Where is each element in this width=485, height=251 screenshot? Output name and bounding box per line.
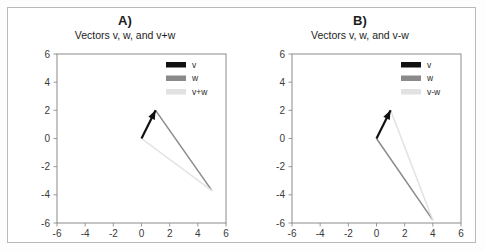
legend-swatch-w	[166, 76, 186, 82]
x-tick-label: 2	[402, 228, 408, 239]
y-tick-label: 0	[279, 133, 285, 144]
legend-swatch-v	[401, 62, 421, 68]
x-tick-label: 6	[458, 228, 464, 239]
x-tick-label: 0	[139, 228, 145, 239]
y-tick-label: -2	[276, 161, 285, 172]
x-tick-label: -4	[81, 228, 90, 239]
y-tick-label: -4	[41, 189, 50, 200]
y-tick-label: 4	[279, 77, 285, 88]
y-tick-label: 4	[44, 77, 50, 88]
x-tick-label: 6	[223, 228, 229, 239]
panel-a-plot: -6-4-20246-6-4-20246vwv+w	[8, 40, 242, 240]
y-tick-label: 6	[44, 49, 50, 60]
figure-root: A) Vectors v, w, and v+w -6-4-20246-6-4-…	[0, 0, 485, 251]
legend-swatch-w	[401, 76, 421, 82]
y-tick-label: 2	[279, 105, 285, 116]
y-tick-label: -6	[41, 218, 50, 229]
legend-label-w: w	[191, 73, 199, 83]
legend-label-w: w	[426, 73, 434, 83]
legend: vwv-w	[397, 57, 457, 102]
y-tick-label: -4	[276, 189, 285, 200]
legend-label-v-w: v-w	[427, 87, 441, 97]
x-tick-label: 0	[374, 228, 380, 239]
y-tick-label: -6	[276, 218, 285, 229]
plot-panel-b: B) Vectors v, w, and v-w -6-4-20246-6-4-…	[243, 7, 477, 243]
x-tick-label: -4	[316, 228, 325, 239]
y-tick-label: 2	[44, 105, 50, 116]
y-tick-label: 0	[44, 133, 50, 144]
panel-b-letter: B)	[243, 13, 477, 28]
x-tick-label: 4	[195, 228, 201, 239]
plot-panel-a: A) Vectors v, w, and v+w -6-4-20246-6-4-…	[8, 7, 242, 243]
x-tick-label: -6	[53, 228, 62, 239]
panel-b-plot: -6-4-20246-6-4-20246vwv-w	[243, 40, 477, 240]
x-tick-label: -6	[288, 228, 297, 239]
x-tick-label: -2	[344, 228, 353, 239]
panel-a-letter: A)	[8, 13, 242, 28]
x-tick-label: -2	[109, 228, 118, 239]
legend-swatch-v+w	[166, 89, 186, 95]
legend-swatch-v-w	[401, 89, 421, 95]
legend: vwv+w	[162, 57, 222, 102]
y-tick-label: -2	[41, 161, 50, 172]
y-tick-label: 6	[279, 49, 285, 60]
legend-label-v+w: v+w	[192, 87, 208, 97]
x-tick-label: 4	[430, 228, 436, 239]
legend-swatch-v	[166, 62, 186, 68]
x-tick-label: 2	[167, 228, 173, 239]
